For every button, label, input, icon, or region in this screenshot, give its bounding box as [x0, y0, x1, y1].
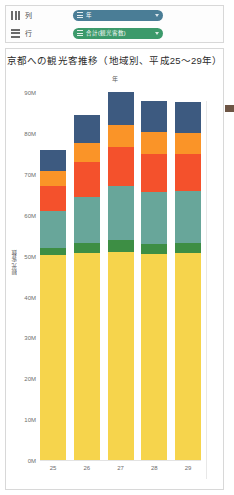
x-axis-tick: 29 — [175, 465, 201, 471]
panel-divider — [206, 101, 207, 479]
y-axis-tick: 30M — [24, 335, 36, 341]
pill-measure[interactable]: 合計(観光客数) — [73, 28, 163, 39]
bar-segment-orange-region[interactable] — [175, 133, 201, 153]
bar-segment-navy-region[interactable] — [40, 150, 66, 171]
bar-segment-teal-region[interactable] — [141, 192, 167, 244]
chart-card: 京都への観光客推移（地域別、平成25〜29年） 年 観光客数 90M80M70M… — [5, 48, 224, 490]
rows-shelf-label: 行 — [25, 28, 73, 38]
bar-group: 2526272829 — [40, 85, 201, 461]
bar-segment-orange-region[interactable] — [108, 125, 134, 147]
bar-segment-teal-region[interactable] — [40, 211, 66, 248]
y-axis-tick: 0M — [28, 458, 36, 464]
y-axis-tick: 80M — [24, 131, 36, 137]
bar-segment-orange-red-region[interactable] — [141, 154, 167, 192]
drag-handle-icon — [77, 30, 83, 36]
bar-segment-green-region[interactable] — [74, 243, 100, 252]
pill-year[interactable]: 年 — [73, 10, 163, 21]
shelf-row-rows: 行 合計(観光客数) — [6, 24, 223, 42]
y-axis-tick: 10M — [24, 417, 36, 423]
bar-segment-orange-region[interactable] — [74, 143, 100, 162]
bar-segment-navy-region[interactable] — [74, 115, 100, 143]
pill-measure-label: 合計(観光客数) — [86, 29, 126, 37]
y-axis-tick: 40M — [24, 295, 36, 301]
bar-segment-green-region[interactable] — [175, 243, 201, 254]
y-axis-tick: 90M — [24, 90, 36, 96]
shelf-row-columns: 列 年 — [6, 6, 223, 24]
bar-segment-orange-red-region[interactable] — [175, 154, 201, 192]
bar-segment-yellow-region[interactable] — [40, 255, 66, 461]
bar-segment-orange-red-region[interactable] — [74, 162, 100, 197]
pill-year-label: 年 — [86, 11, 92, 19]
x-axis-tick: 25 — [40, 465, 66, 471]
bar-column[interactable]: 26 — [74, 85, 100, 461]
y-axis-title: 観光客数 — [10, 249, 18, 275]
bar-column[interactable]: 27 — [108, 85, 134, 461]
bar-segment-yellow-region[interactable] — [141, 254, 167, 461]
drag-handle-icon — [77, 12, 83, 18]
bar-segment-orange-region[interactable] — [40, 171, 66, 186]
bar-segment-navy-region[interactable] — [175, 102, 201, 133]
y-axis-tick: 50M — [24, 254, 36, 260]
x-axis-title: 年 — [6, 74, 223, 83]
x-axis-tick: 27 — [108, 465, 134, 471]
shelf-panel: 列 年 行 合計(観光客数) — [5, 5, 224, 43]
bar-segment-yellow-region[interactable] — [74, 253, 100, 461]
bar-segment-yellow-region[interactable] — [175, 253, 201, 461]
chart-title: 京都への観光客推移（地域別、平成25〜29年） — [6, 53, 223, 67]
bar-segment-navy-region[interactable] — [141, 101, 167, 133]
x-axis-tick: 26 — [74, 465, 100, 471]
bar-segment-teal-region[interactable] — [108, 186, 134, 239]
bar-segment-orange-red-region[interactable] — [108, 147, 134, 186]
x-axis-line — [40, 460, 201, 461]
rows-shelf-icon — [11, 29, 20, 38]
y-axis-tick: 60M — [24, 213, 36, 219]
chevron-down-icon[interactable] — [155, 32, 159, 35]
bar-segment-green-region[interactable] — [108, 240, 134, 252]
columns-shelf-label: 列 — [25, 10, 73, 20]
bar-segment-teal-region[interactable] — [74, 197, 100, 243]
bar-segment-orange-region[interactable] — [141, 132, 167, 153]
edge-marker — [225, 105, 234, 112]
bar-segment-yellow-region[interactable] — [108, 252, 134, 461]
y-axis-tick: 70M — [24, 172, 36, 178]
chevron-down-icon[interactable] — [155, 14, 159, 17]
bar-segment-green-region[interactable] — [141, 244, 167, 254]
bar-segment-navy-region[interactable] — [108, 92, 134, 125]
bar-column[interactable]: 28 — [141, 85, 167, 461]
bar-segment-teal-region[interactable] — [175, 191, 201, 242]
bar-column[interactable]: 29 — [175, 85, 201, 461]
bar-segment-orange-red-region[interactable] — [40, 186, 66, 211]
y-axis-tick: 20M — [24, 376, 36, 382]
x-axis-tick: 28 — [141, 465, 167, 471]
bar-column[interactable]: 25 — [40, 85, 66, 461]
plot-area: 90M80M70M60M50M40M30M20M10M0M 2526272829 — [40, 85, 201, 461]
columns-shelf-icon — [11, 11, 20, 20]
